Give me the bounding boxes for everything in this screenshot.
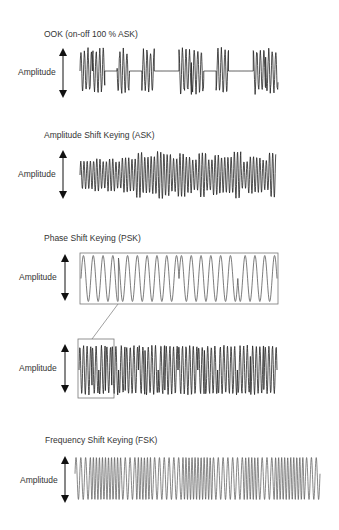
- psk-full-waveform: [79, 345, 277, 395]
- fsk-amplitude-arrow-icon: [61, 456, 69, 503]
- psk-zoom-connector: [92, 304, 118, 339]
- ook-waveform: [80, 47, 278, 94]
- ask-waveform: [80, 151, 276, 198]
- ask-amplitude-arrow-icon: [59, 150, 67, 199]
- psk-amplitude-arrow-icon: [61, 254, 69, 301]
- psk-magnified-waveform: [81, 256, 277, 302]
- ook-amplitude-arrow-icon: [59, 48, 67, 98]
- fsk-waveform: [75, 458, 320, 500]
- psk-full-amplitude-arrow-icon: [61, 344, 69, 393]
- modulation-diagram: [0, 0, 339, 530]
